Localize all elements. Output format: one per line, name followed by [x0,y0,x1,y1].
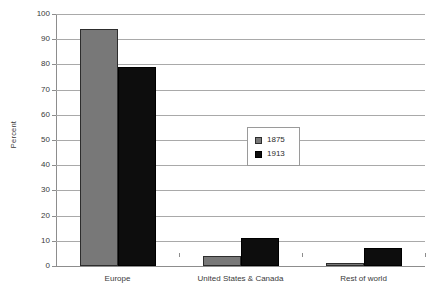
plot-area: 0102030405060708090100 1875 1913 [56,14,425,266]
y-tick-70 [52,90,56,91]
legend-item-1913: 1913 [255,147,299,161]
y-tick-label-10: 10 [22,237,50,245]
y-tick-label-30: 30 [22,186,50,194]
y-tick-label-50: 50 [22,136,50,144]
y-tick-label-80: 80 [22,60,50,68]
y-tick-10 [52,241,56,242]
y-tick-80 [52,64,56,65]
bar-1875-rest-of-world [326,263,364,266]
x-tick-1 [179,253,180,257]
y-tick-label-20: 20 [22,212,50,220]
y-tick-0 [52,266,56,267]
y-tick-30 [52,190,56,191]
x-axis-label-rest-of-world: Rest of world [294,274,434,283]
bar-chart: Percent 0102030405060708090100 1875 1913… [0,0,437,301]
y-tick-label-100: 100 [22,10,50,18]
y-axis-title: Percent [9,100,18,170]
bar-1875-europe [80,29,118,266]
y-tick-label-70: 70 [22,86,50,94]
legend-label-1913: 1913 [267,150,285,158]
bar-1875-united-states-canada [203,256,241,266]
y-tick-label-0: 0 [22,262,50,270]
x-axis-line [56,266,425,267]
y-tick-label-90: 90 [22,35,50,43]
legend-swatch-1875 [255,137,262,144]
chart-legend: 1875 1913 [247,127,300,166]
bar-1913-rest-of-world [364,248,402,266]
gridline-100 [56,14,425,15]
x-tick-2 [302,253,303,257]
y-tick-100 [52,14,56,15]
x-axis-label-united-states-canada: United States & Canada [171,274,311,283]
y-tick-60 [52,115,56,116]
x-tick-edge-3 [425,253,426,257]
legend-label-1875: 1875 [267,136,285,144]
legend-swatch-1913 [255,151,262,158]
legend-item-1875: 1875 [255,133,299,147]
bar-1913-europe [118,67,156,266]
y-tick-label-40: 40 [22,161,50,169]
bar-1913-united-states-canada [241,238,279,266]
y-tick-50 [52,140,56,141]
y-tick-20 [52,216,56,217]
x-tick-edge-0 [56,253,57,257]
y-tick-label-60: 60 [22,111,50,119]
y-tick-40 [52,165,56,166]
y-tick-90 [52,39,56,40]
x-axis-label-europe: Europe [48,274,188,283]
